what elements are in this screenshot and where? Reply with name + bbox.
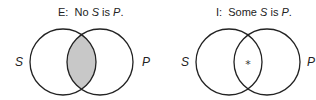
- label-s: S: [15, 55, 23, 69]
- asterisk-marker: *: [245, 58, 251, 71]
- label-p: P: [307, 55, 315, 69]
- diagram-e: S P: [15, 29, 150, 95]
- diagram-i: * S P: [181, 29, 315, 95]
- circle-p: [234, 29, 300, 95]
- label-p: P: [142, 55, 150, 69]
- venn-diagrams: S P * S P: [0, 0, 316, 100]
- label-s: S: [181, 55, 189, 69]
- circle-s: [196, 29, 262, 95]
